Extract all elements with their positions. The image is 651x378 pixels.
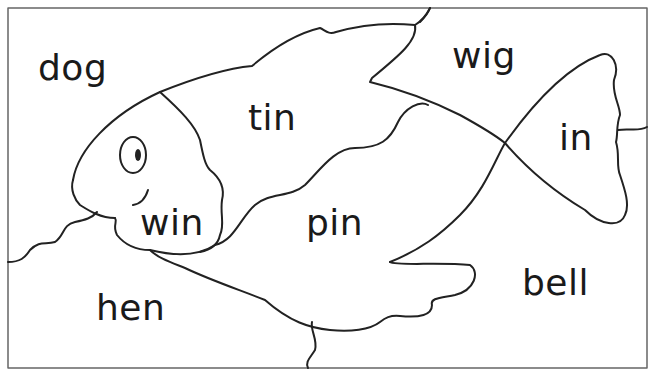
word-piece-in[interactable]: in (559, 120, 593, 156)
word-piece-hen[interactable]: hen (96, 290, 165, 326)
word-piece-wig[interactable]: wig (452, 38, 516, 74)
fish-word-puzzle: dog tin wig in win pin hen bell (0, 0, 651, 378)
word-piece-tin[interactable]: tin (248, 100, 296, 136)
word-piece-win[interactable]: win (140, 205, 204, 241)
word-piece-pin[interactable]: pin (306, 205, 363, 241)
word-piece-dog[interactable]: dog (38, 50, 107, 86)
word-piece-bell[interactable]: bell (522, 265, 589, 301)
